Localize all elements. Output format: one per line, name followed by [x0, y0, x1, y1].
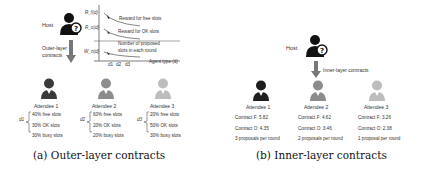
outer-arrow-label-1: Outer-layer — [42, 45, 67, 51]
down-arrow-icon — [66, 40, 76, 64]
free-slots: 20% free slots — [150, 113, 179, 118]
agent-type: d3 — [137, 118, 142, 123]
curve-label-proposed-1: Number of proposed — [118, 42, 160, 47]
y-label-ro: R_o(d) — [85, 26, 99, 31]
attendee-name: Attendee 1 — [246, 104, 270, 110]
contract-f: Contract F: 5.82 — [235, 116, 268, 121]
host-label: Host — [286, 45, 297, 51]
contract-o: Contract O: 2.38 — [358, 127, 392, 132]
curve-label-proposed-2: slots in each round — [118, 49, 157, 54]
proposals-per-round: 1 proposal per round — [358, 137, 400, 142]
busy-slots: 30% busy slots — [32, 134, 63, 139]
busy-slots: 20% busy slots — [93, 134, 124, 139]
x-tick-d1: d1 — [108, 63, 113, 68]
attendee-name: Attendee 3 — [364, 104, 388, 110]
caption-a: (a) Outer-layer contracts — [33, 149, 165, 161]
busy-slots: 30% busy slots — [150, 134, 181, 139]
attendee-icon — [368, 80, 386, 102]
outer-arrow-label-2: contracts — [42, 52, 62, 58]
attendee-icon — [97, 78, 115, 100]
y-label-rf: R_f(d) — [85, 11, 98, 16]
x-tick-d3: d3 — [125, 63, 130, 68]
attendee-name: Attendee 2 — [304, 104, 328, 110]
agent-type: d2 — [80, 118, 85, 123]
contract-o: Contract O: 3.46 — [298, 127, 332, 132]
attendee-icon — [154, 78, 172, 100]
x-tick-d2: d2 — [116, 63, 121, 68]
attendee-name: Attendee 1 — [34, 103, 58, 109]
free-slots: 60% free slots — [93, 113, 122, 118]
proposals-per-round: 3 proposals per round — [235, 137, 280, 142]
host-icon: ? — [60, 12, 82, 36]
proposals-per-round: 2 proposals per round — [298, 137, 343, 142]
svg-text:?: ? — [74, 25, 78, 33]
attendee-icon — [40, 78, 58, 100]
ok-slots: 30% OK slots — [32, 124, 60, 129]
contract-f: Contract F: 3.26 — [358, 116, 391, 121]
curve-label-free: Reward for free slots — [119, 17, 161, 22]
svg-text:?: ? — [320, 47, 324, 55]
host-label: Host — [42, 22, 53, 28]
ok-slots: 20% OK slots — [93, 124, 121, 129]
y-label-wn: W_n(d) — [84, 50, 99, 55]
down-arrow-icon — [311, 61, 321, 79]
caption-b: (b) Inner-layer contracts — [256, 149, 387, 161]
host-icon: ? — [306, 34, 328, 58]
inner-arrow-label: Inner-layer contracts — [323, 67, 369, 73]
free-slots: 40% free slots — [32, 113, 61, 118]
attendee-name: Attendee 2 — [92, 103, 116, 109]
agent-type: d1 — [19, 118, 24, 123]
ok-slots: 50% OK slots — [150, 124, 178, 129]
attendee-name: Attendee 3 — [150, 103, 174, 109]
curve-label-ok: Reward for OK slots — [118, 30, 159, 35]
attendee-icon — [252, 80, 270, 102]
x-axis-label: Agent type (d) — [149, 60, 178, 65]
attendee-icon — [309, 80, 327, 102]
contract-o: Contract O: 4.35 — [235, 127, 269, 132]
contract-f: Contract F: 4.62 — [298, 116, 331, 121]
